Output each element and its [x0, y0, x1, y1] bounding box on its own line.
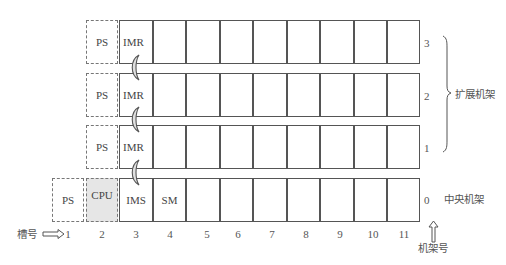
plc-rack-diagram: PS IMR 3 PS IMR 2 PS IMR 1 PS CPU IMS SM… [0, 0, 506, 265]
rack1-slot6 [220, 125, 253, 169]
rack-arrow-icon [429, 221, 438, 242]
rack3-slot7 [253, 20, 287, 64]
rack2-slot11 [387, 73, 420, 117]
rack0-ps-module: PS [52, 178, 84, 222]
slot-number-5: 5 [204, 229, 210, 240]
rack1-slot11 [387, 125, 420, 169]
rack0-sm-label: SM [162, 194, 178, 206]
rack1-slot9 [320, 125, 354, 169]
rack2-ps-module: PS [86, 73, 118, 117]
rack0-slot5 [186, 178, 220, 222]
rack2-slot4 [153, 73, 186, 117]
rack1-ps-module: PS [86, 125, 118, 169]
slot-number-4: 4 [167, 229, 173, 240]
rack3-ps-label: PS [96, 36, 108, 48]
expansion-brace-icon [443, 36, 451, 152]
rack-number-0: 0 [424, 195, 430, 206]
rack1-imr-label: IMR [123, 141, 144, 153]
rack0-slot9 [320, 178, 354, 222]
rack0-slot8 [287, 178, 320, 222]
rack-number-2: 2 [424, 91, 430, 102]
rack1-ps-label: PS [96, 141, 108, 153]
rack-axis-label: 机架号 [418, 243, 448, 254]
slot-number-3: 3 [133, 229, 139, 240]
rack2-slot5 [186, 73, 220, 117]
rack3-slot6 [220, 20, 253, 64]
rack2-slot7 [253, 73, 287, 117]
rack0-slot11 [387, 178, 420, 222]
rack3-slot4 [153, 20, 186, 64]
rack3-slot5 [186, 20, 220, 64]
rack3-slot8 [287, 20, 320, 64]
slot-axis-label: 槽号 [17, 229, 37, 240]
rack1-slot10 [354, 125, 387, 169]
rack2-slot6 [220, 73, 253, 117]
slot-number-7: 7 [269, 229, 275, 240]
expansion-racks-label: 扩展机架 [455, 89, 495, 100]
rack2-slot10 [354, 73, 387, 117]
slot-number-6: 6 [235, 229, 241, 240]
central-rack-label: 中央机架 [444, 194, 484, 205]
slot-number-8: 8 [303, 229, 309, 240]
rack2-imr-module: IMR [119, 73, 153, 117]
slot-number-9: 9 [337, 229, 343, 240]
rack0-ps-label: PS [62, 194, 74, 206]
slot-number-10: 10 [368, 229, 379, 240]
slot-number-11: 11 [399, 229, 410, 240]
rack0-slot10 [354, 178, 387, 222]
rack2-slot8 [287, 73, 320, 117]
rack0-cpu-module: CPU [86, 178, 118, 222]
rack0-slot6 [220, 178, 253, 222]
rack0-cpu-label: CPU [91, 189, 112, 201]
rack2-slot9 [320, 73, 354, 117]
rack0-ims-module: IMS [119, 178, 153, 222]
rack3-imr-module: IMR [119, 20, 153, 64]
rack3-slot10 [354, 20, 387, 64]
rack1-slot7 [253, 125, 287, 169]
slot-number-2: 2 [99, 229, 105, 240]
rack-number-1: 1 [424, 143, 430, 154]
rack3-ps-module: PS [86, 20, 118, 64]
rack1-slot8 [287, 125, 320, 169]
rack1-slot4 [153, 125, 186, 169]
rack3-slot11 [387, 20, 420, 64]
rack3-slot9 [320, 20, 354, 64]
slot-number-1: 1 [65, 229, 71, 240]
rack2-ps-label: PS [96, 89, 108, 101]
rack1-imr-module: IMR [119, 125, 153, 169]
rack3-imr-label: IMR [123, 36, 144, 48]
rack-number-3: 3 [424, 38, 430, 49]
rack1-slot5 [186, 125, 220, 169]
rack0-sm-module: SM [153, 178, 186, 222]
rack0-ims-label: IMS [126, 194, 146, 206]
slot-arrow-icon [43, 230, 64, 239]
rack2-imr-label: IMR [123, 89, 144, 101]
rack0-slot7 [253, 178, 287, 222]
